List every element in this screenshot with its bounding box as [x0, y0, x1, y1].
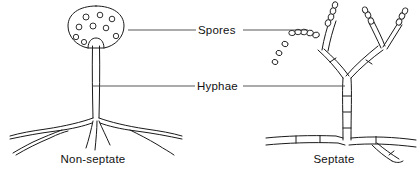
- conidia-chain-right-inner: [361, 6, 374, 25]
- non-septate-organism: [10, 6, 182, 155]
- fungal-hyphae-diagram: Spores Hyphae Non-septate Septate: [0, 0, 417, 176]
- septate-tip-right-fork: [369, 22, 402, 49]
- septate-branch-left: [318, 49, 349, 78]
- free-spores: [271, 40, 288, 65]
- non-septate-stalk: [92, 46, 99, 118]
- conidia-chain-right-outer: [395, 7, 409, 26]
- spores-label: Spores: [198, 24, 236, 36]
- septate-branch-right: [346, 46, 383, 78]
- septate-caption: Septate: [313, 153, 354, 165]
- non-septate-caption: Non-septate: [61, 153, 126, 165]
- callout-leaders: [92, 30, 345, 86]
- hyphae-label: Hyphae: [197, 80, 238, 92]
- sporangium-spores: [73, 12, 118, 44]
- septate-stalk: [343, 78, 352, 140]
- conidia-chain-middle: [324, 1, 338, 27]
- non-septate-rhizoids: [10, 118, 182, 155]
- septate-organism: [266, 1, 416, 162]
